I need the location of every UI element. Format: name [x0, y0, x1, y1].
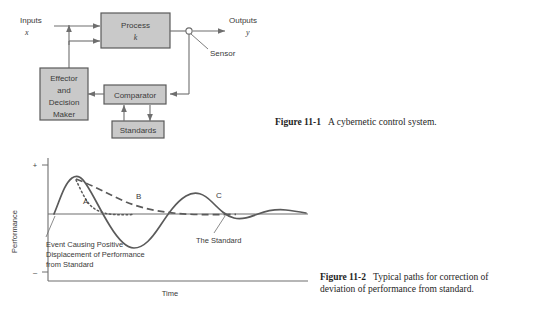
figure-11-2-caption: Figure 11-2Typical paths for correction …: [320, 272, 532, 296]
standard-annotation-label: The Standard: [196, 236, 241, 245]
y-axis-tick-bottom-label: –: [33, 268, 38, 277]
effector-label-line2: and: [57, 86, 70, 95]
figure-11-2-caption-line1: Typical paths for correction of: [373, 272, 488, 282]
figure-11-1-caption: Figure 11-1A cybernetic control system.: [275, 117, 437, 129]
figure-11-2-caption-line2: deviation of performance from standard.: [320, 284, 474, 294]
inputs-variable: x: [24, 28, 29, 37]
standards-box-label: Standards: [120, 126, 156, 135]
y-axis-tick-top-label: +: [33, 161, 38, 170]
effector-label-line1: Effector: [50, 74, 78, 83]
curve-c-label: C: [216, 191, 222, 200]
page: Inputs x Process k Outputs y Sensor Effe…: [0, 0, 536, 310]
sensor-leader-line: [191, 34, 208, 49]
figure-11-1-diagram: Inputs x Process k Outputs y Sensor Effe…: [0, 0, 536, 150]
sensor-junction-icon: [186, 28, 192, 34]
figure-11-1-number: Figure 11-1: [275, 117, 321, 127]
comparator-box-label: Comparator: [114, 91, 157, 100]
event-annotation-line1: Event Causing Positive: [46, 240, 123, 249]
figure-11-1-caption-text: A cybernetic control system.: [328, 117, 437, 127]
effector-label-line3: Decision: [49, 98, 80, 107]
x-axis-title: Time: [162, 289, 178, 298]
curve-c-path: [54, 176, 306, 248]
effector-label-line4: Maker: [53, 110, 76, 119]
sensor-label: Sensor: [210, 49, 236, 58]
event-annotation-line2: Displacement of Performance: [46, 250, 145, 259]
figure-11-2-number: Figure 11-2: [320, 272, 366, 282]
event-annotation-line3: from Standard: [46, 260, 94, 269]
curve-a-label: A: [83, 197, 89, 206]
y-axis-title: Performance: [10, 210, 19, 253]
process-box-label: Process: [121, 21, 150, 30]
process-box-variable: k: [134, 33, 138, 42]
inputs-label: Inputs: [20, 16, 42, 25]
standard-annotation-leader: [214, 216, 225, 233]
process-box: [101, 13, 170, 48]
curve-b-label: B: [136, 192, 141, 201]
event-annotation-leader: [46, 216, 55, 237]
outputs-variable: y: [245, 28, 250, 37]
outputs-label: Outputs: [229, 16, 257, 25]
